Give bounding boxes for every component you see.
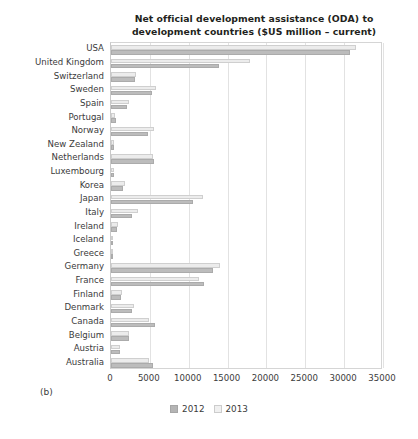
bar-2013 [111, 236, 113, 241]
x-axis-tick-label: 30000 [329, 373, 356, 384]
bar-2012 [111, 132, 148, 137]
y-axis-label: Austria [0, 343, 104, 353]
legend-swatch-2012 [170, 405, 178, 413]
y-axis-label: Spain [0, 98, 104, 108]
legend-label-2013: 2013 [226, 404, 248, 414]
y-axis-label: Denmark [0, 302, 104, 312]
bar-2013 [111, 331, 129, 336]
y-axis-label: Italy [0, 207, 104, 217]
bar-group [111, 166, 381, 180]
y-axis-label: Greece [0, 248, 104, 258]
x-axis-tick-label: 25000 [291, 373, 318, 384]
bar-2012 [111, 363, 153, 368]
bar-2012 [111, 77, 135, 82]
x-axis-labels: 05000100001500020000250003000035000 [0, 373, 418, 387]
bar-group [111, 316, 381, 330]
bar-2012 [111, 282, 204, 287]
y-axis-label: Luxembourg [0, 166, 104, 176]
bar-group [111, 234, 381, 248]
bar-2012 [111, 173, 114, 178]
bar-2013 [111, 45, 356, 50]
bar-2013 [111, 195, 203, 200]
bar-2013 [111, 86, 156, 91]
chart-legend: 20122013 [0, 404, 418, 414]
y-axis-label: Germany [0, 261, 104, 271]
x-axis-tick-label: 20000 [252, 373, 279, 384]
y-axis-label: USA [0, 43, 104, 53]
y-axis-label: Switzerland [0, 71, 104, 81]
chart-title: Net official development assistance (ODA… [104, 12, 404, 38]
bar-2012 [111, 241, 113, 246]
y-axis-label: Japan [0, 193, 104, 203]
bar-rows [111, 43, 381, 368]
bar-2013 [111, 277, 199, 282]
bar-group [111, 152, 381, 166]
bar-2013 [111, 113, 115, 118]
y-axis-label: Canada [0, 316, 104, 326]
chart-figure: Net official development assistance (ODA… [0, 0, 418, 439]
x-axis-tick-label: 35000 [368, 373, 395, 384]
y-axis-label: Norway [0, 125, 104, 135]
bar-group [111, 329, 381, 343]
bar-2013 [111, 72, 136, 77]
legend-swatch-2013 [214, 405, 222, 413]
bar-2013 [111, 127, 154, 132]
bar-group [111, 43, 381, 57]
x-axis-tick-label: 5000 [138, 373, 160, 384]
x-axis-tick-label: 10000 [174, 373, 201, 384]
bar-2012 [111, 145, 114, 150]
bar-group [111, 220, 381, 234]
bar-2012 [111, 105, 127, 110]
bar-group [111, 302, 381, 316]
y-axis-label: Belgium [0, 330, 104, 340]
bar-2012 [111, 200, 193, 205]
bar-2012 [111, 64, 219, 69]
bar-group [111, 247, 381, 261]
bar-2012 [111, 214, 132, 219]
bar-2013 [111, 154, 153, 159]
gridline [383, 43, 384, 368]
bar-group [111, 207, 381, 221]
bar-group [111, 84, 381, 98]
bar-2012 [111, 268, 213, 273]
y-axis-labels: USAUnited KingdomSwitzerlandSwedenSpainP… [0, 42, 104, 369]
bar-2013 [111, 209, 138, 214]
bar-2013 [111, 222, 118, 227]
bar-group [111, 275, 381, 289]
bar-2012 [111, 50, 350, 55]
bar-group [111, 138, 381, 152]
bar-2013 [111, 345, 120, 350]
bar-2013 [111, 59, 250, 64]
bar-group [111, 288, 381, 302]
bar-group [111, 125, 381, 139]
bar-2012 [111, 254, 113, 259]
bar-2013 [111, 318, 149, 323]
bar-2012 [111, 227, 117, 232]
bar-2013 [111, 358, 149, 363]
bar-group [111, 179, 381, 193]
chart-title-line-2: development countries ($US million – cur… [104, 25, 404, 38]
bar-2013 [111, 140, 114, 145]
y-axis-label: Iceland [0, 234, 104, 244]
bar-group [111, 261, 381, 275]
bar-group [111, 70, 381, 84]
bar-2012 [111, 323, 155, 328]
y-axis-label: New Zealand [0, 139, 104, 149]
legend-entry: 2012 [170, 404, 204, 414]
x-axis-tick-label: 15000 [213, 373, 240, 384]
bar-group [111, 343, 381, 357]
bar-2013 [111, 249, 113, 254]
y-axis-label: Portugal [0, 112, 104, 122]
bar-2013 [111, 263, 220, 268]
bar-2012 [111, 186, 123, 191]
y-axis-label: Korea [0, 180, 104, 190]
y-axis-label: Netherlands [0, 152, 104, 162]
y-axis-label: France [0, 275, 104, 285]
y-axis-label: Ireland [0, 221, 104, 231]
bar-2013 [111, 304, 134, 309]
legend-label-2012: 2012 [182, 404, 204, 414]
bar-group [111, 356, 381, 370]
bar-2012 [111, 309, 132, 314]
panel-label: (b) [40, 387, 53, 397]
bar-2013 [111, 100, 129, 105]
